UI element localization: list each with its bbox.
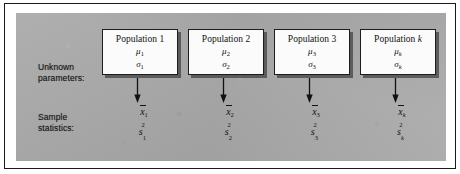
s-subscript: k [401,134,404,141]
population-title-prefix: Population [116,34,157,44]
s-superscript: 2 [227,121,230,128]
sample-statistics-label: Sample statistics: [38,112,74,133]
mu-symbol: μ [136,46,141,56]
population-mean: μ2 [189,45,263,58]
population-mean: μk [361,45,435,58]
population-title-prefix: Population [202,34,243,44]
population-box: Population 2 μ2 σ2 [188,29,264,75]
sample-variance: s32 [278,125,354,139]
s-superscript: 2 [399,121,402,128]
population-sd: σ3 [275,58,349,71]
population-column: Population k μk σk xk sk2 [360,13,436,161]
down-arrow-icon [305,78,314,104]
down-arrow-icon [133,78,142,104]
population-title: Population 2 [189,33,263,45]
sigma-subscript: 2 [227,63,230,70]
x-bar-subscript: 3 [317,111,320,118]
population-mean: μ3 [275,45,349,58]
x-glyph: x [312,106,316,117]
s-squared-symbol: s32 [311,125,321,139]
population-title-index: 3 [331,34,336,44]
s-superscript: 2 [141,121,144,128]
sigma-symbol: σ [136,59,140,69]
unknown-parameters-label: Unknown parameters: [38,62,84,83]
sample-variance: s12 [106,125,182,139]
sigma-subscript: k [399,63,402,70]
unknown-parameters-label-line2: parameters: [38,73,84,84]
population-sd: σ2 [189,58,263,71]
sigma-subscript: 1 [141,63,144,70]
population-title: Population 1 [103,33,177,45]
population-title-index: 1 [159,34,164,44]
sigma-symbol: σ [308,59,312,69]
x-glyph: x [226,106,230,117]
population-title: Population 3 [275,33,349,45]
x-bar-symbol: x1 [140,106,148,117]
s-subscript: 3 [315,134,318,141]
mu-subscript: 3 [313,50,316,57]
population-box: Population 3 μ3 σ3 [274,29,350,75]
population-title-index: 2 [245,34,250,44]
population-title: Population k [361,33,435,45]
population-title-index: k [418,34,422,44]
down-arrow-icon [219,78,228,104]
s-subscript: 1 [143,134,146,141]
mu-subscript: 1 [141,50,144,57]
figure-frame: Unknown parameters: Sample statistics: P… [4,3,456,169]
x-bar-subscript: 1 [145,111,148,118]
sample-mean: x1 [106,106,182,117]
s-superscript: 2 [313,121,316,128]
down-arrow-icon [391,78,400,104]
population-box: Population 1 μ1 σ1 [102,29,178,75]
sample-variance: s22 [192,125,268,139]
figure-panel: Unknown parameters: Sample statistics: P… [16,13,446,161]
sample-mean: x2 [192,106,268,117]
population-title-prefix: Population [374,34,415,44]
population-sd: σk [361,58,435,71]
x-bar-subscript: 2 [231,111,234,118]
x-bar-symbol: x2 [226,106,234,117]
sample-mean: x3 [278,106,354,117]
population-mean: μ1 [103,45,177,58]
x-bar-subscript: k [403,111,406,118]
sample-variance: sk2 [364,125,440,139]
s-squared-symbol: s12 [139,125,149,139]
s-squared-symbol: s22 [225,125,235,139]
sample-statistics-label-line2: statistics: [38,123,74,134]
population-column: Population 2 μ2 σ2 x2 s22 [188,13,264,161]
population-sd: σ1 [103,58,177,71]
population-title-prefix: Population [288,34,329,44]
mu-symbol: μ [222,46,227,56]
mu-symbol: μ [308,46,313,56]
population-box: Population k μk σk [360,29,436,75]
sample-mean: xk [364,106,440,117]
mu-subscript: k [399,50,402,57]
sigma-subscript: 3 [313,63,316,70]
population-column: Population 1 μ1 σ1 x1 s12 [102,13,178,161]
sample-statistics-label-line1: Sample [38,112,74,123]
x-bar-symbol: xk [398,106,405,117]
s-squared-symbol: sk2 [397,125,407,139]
sigma-symbol: σ [222,59,226,69]
population-column: Population 3 μ3 σ3 x3 s32 [274,13,350,161]
mu-subscript: 2 [227,50,230,57]
x-bar-symbol: x3 [312,106,320,117]
s-subscript: 2 [229,134,232,141]
unknown-parameters-label-line1: Unknown [38,62,84,73]
x-glyph: x [140,106,144,117]
